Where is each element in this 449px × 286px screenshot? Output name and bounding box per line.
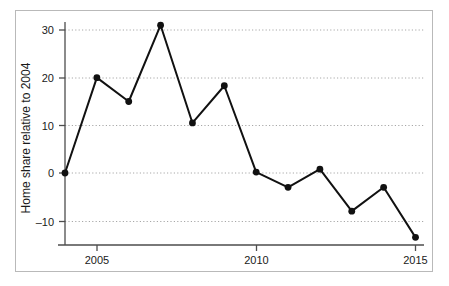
data-series-line <box>65 25 416 237</box>
ytick-label-20: 20 <box>42 72 54 84</box>
xtick-label-2010: 2010 <box>244 254 268 266</box>
figure-container: 30 20 10 0 –10 2005 2010 2015 Home share… <box>0 0 449 286</box>
gridlines <box>65 30 424 222</box>
ytick-label-0: 0 <box>48 167 54 179</box>
xtick-label-2015: 2015 <box>403 254 427 266</box>
y-axis-title: Home share relative to 2004 <box>19 62 33 213</box>
data-point-2011 <box>285 184 292 191</box>
data-point-2009 <box>221 82 228 89</box>
data-point-2004 <box>62 170 69 177</box>
x-tick-marks <box>97 245 416 251</box>
ytick-label-minus10: –10 <box>36 216 54 228</box>
data-point-2006 <box>125 98 132 105</box>
ytick-label-30: 30 <box>42 24 54 36</box>
data-point-2012 <box>317 166 324 173</box>
data-point-2007 <box>157 22 164 29</box>
y-tick-marks <box>59 30 65 222</box>
ytick-label-10: 10 <box>42 120 54 132</box>
data-point-2010 <box>253 169 260 176</box>
data-point-2015 <box>412 234 419 241</box>
data-point-2013 <box>348 208 355 215</box>
data-point-2008 <box>189 120 196 127</box>
line-chart: 30 20 10 0 –10 2005 2010 2015 Home share… <box>0 0 449 286</box>
xtick-label-2005: 2005 <box>85 254 109 266</box>
data-point-2005 <box>93 74 100 81</box>
data-point-2014 <box>380 184 387 191</box>
